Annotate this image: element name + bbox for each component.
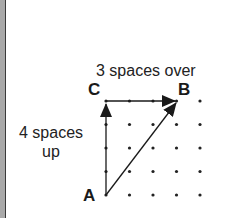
- grid-dot: [198, 99, 201, 102]
- grid-dot: [128, 170, 131, 173]
- grid-dot: [198, 170, 201, 173]
- vertical-distance-label-line1: 4 spaces: [19, 124, 83, 141]
- dot-grid-diagram: [0, 0, 228, 218]
- grid-dot: [198, 123, 201, 126]
- grid-dot: [175, 123, 178, 126]
- point-a-label: A: [83, 187, 95, 204]
- grid-dot: [175, 170, 178, 173]
- point-b-label: B: [178, 81, 190, 98]
- grid-dot: [198, 193, 201, 196]
- grid-dot: [151, 146, 154, 149]
- grid-dots: [104, 99, 201, 196]
- horizontal-distance-label: 3 spaces over: [96, 62, 196, 79]
- vertical-distance-label-line2: up: [42, 143, 60, 160]
- grid-dot: [151, 123, 154, 126]
- grid-dot: [128, 123, 131, 126]
- grid-dot: [128, 146, 131, 149]
- grid-dot: [151, 193, 154, 196]
- grid-dot: [175, 193, 178, 196]
- point-c-label: C: [88, 81, 100, 98]
- grid-dot: [198, 146, 201, 149]
- grid-dot: [175, 99, 178, 102]
- grid-dot: [151, 170, 154, 173]
- grid-dot: [128, 193, 131, 196]
- grid-dot: [175, 146, 178, 149]
- diagonal-arrow: [106, 103, 176, 195]
